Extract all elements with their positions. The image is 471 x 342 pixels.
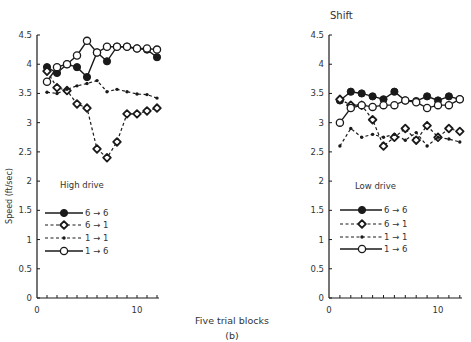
y-tick-label: 3.5 bbox=[18, 88, 32, 98]
y-tick-label: 0.5 bbox=[18, 264, 32, 274]
data-point bbox=[83, 73, 90, 80]
y-tick-label: 3 bbox=[27, 118, 32, 128]
data-point bbox=[73, 52, 80, 59]
x-tick-label: 10 bbox=[132, 305, 143, 315]
series-1-to-1 bbox=[338, 127, 461, 148]
data-point bbox=[103, 58, 110, 65]
data-point bbox=[153, 46, 160, 53]
series-1-to-6 bbox=[336, 96, 463, 127]
data-point bbox=[123, 110, 131, 118]
y-tick-label: 1.5 bbox=[18, 205, 32, 215]
y-tick-label: 1 bbox=[319, 235, 324, 245]
series-6-to-1 bbox=[336, 95, 464, 149]
legend-item: 1 → 6 bbox=[45, 246, 108, 256]
series-line bbox=[340, 99, 460, 122]
legend-item: 1 → 1 bbox=[45, 233, 108, 243]
data-point bbox=[93, 49, 100, 56]
data-point bbox=[85, 82, 88, 85]
legend-marker bbox=[62, 236, 65, 239]
y-tick-label: 4 bbox=[319, 59, 324, 69]
y-tick-label: 2 bbox=[27, 176, 32, 186]
series-6-to-1 bbox=[43, 67, 161, 161]
legend-item: 6 → 6 bbox=[340, 205, 407, 215]
drive-annotation: High drive bbox=[60, 180, 104, 190]
data-point bbox=[434, 102, 441, 109]
data-point bbox=[358, 102, 365, 109]
data-point bbox=[65, 88, 68, 91]
data-point bbox=[103, 154, 111, 162]
data-point bbox=[103, 43, 110, 50]
data-point bbox=[55, 92, 58, 95]
data-point bbox=[413, 99, 420, 106]
legend-item: 6 → 6 bbox=[45, 208, 108, 218]
y-tick-label: 4.5 bbox=[18, 30, 32, 40]
data-point bbox=[402, 97, 409, 104]
data-point bbox=[123, 43, 130, 50]
drive-annotation: Low drive bbox=[355, 181, 396, 191]
data-point bbox=[113, 43, 120, 50]
data-point bbox=[73, 64, 80, 71]
data-point bbox=[115, 88, 118, 91]
data-point bbox=[133, 45, 140, 52]
data-point bbox=[445, 125, 453, 133]
data-point bbox=[391, 88, 398, 95]
data-point bbox=[83, 37, 90, 44]
data-point bbox=[145, 93, 148, 96]
data-point bbox=[369, 103, 376, 110]
legend-marker bbox=[60, 209, 67, 216]
data-point bbox=[424, 93, 431, 100]
data-point bbox=[424, 104, 431, 111]
legend-marker bbox=[60, 247, 67, 254]
data-point bbox=[393, 133, 396, 136]
y-tick-label: 4 bbox=[27, 59, 32, 69]
data-point bbox=[135, 92, 138, 95]
data-point bbox=[113, 138, 121, 146]
y-tick-label: 4.5 bbox=[310, 30, 324, 40]
y-tick-label: 3 bbox=[319, 118, 324, 128]
chart-canvas: 00.511.522.533.544.5010High drive6 → 66 … bbox=[0, 0, 471, 342]
panel-title: Shift bbox=[330, 10, 353, 21]
y-tick-label: 1.5 bbox=[310, 205, 324, 215]
panel-low-drive: 00.511.522.533.544.5010ShiftLow drive6 →… bbox=[310, 10, 463, 315]
legend-marker bbox=[358, 206, 365, 213]
data-point bbox=[347, 88, 354, 95]
legend-label: 6 → 1 bbox=[85, 220, 108, 230]
data-point bbox=[369, 116, 377, 124]
legend-label: 6 → 1 bbox=[384, 219, 407, 229]
legend-label: 1 → 6 bbox=[85, 246, 108, 256]
data-point bbox=[45, 91, 48, 94]
data-point bbox=[436, 136, 439, 139]
legend-label: 6 → 6 bbox=[85, 208, 108, 218]
data-point bbox=[458, 140, 461, 143]
y-tick-label: 0.5 bbox=[310, 264, 324, 274]
y-tick-label: 2 bbox=[319, 176, 324, 186]
legend-marker bbox=[358, 245, 365, 252]
data-point bbox=[143, 107, 151, 115]
y-axis-title: Speed (ft/sec) bbox=[5, 168, 14, 224]
legend-marker bbox=[360, 235, 363, 238]
data-point bbox=[53, 64, 60, 71]
data-point bbox=[415, 131, 418, 134]
y-tick-label: 3.5 bbox=[310, 88, 324, 98]
x-tick-label: 0 bbox=[34, 305, 39, 315]
data-point bbox=[95, 79, 98, 82]
legend-label: 6 → 6 bbox=[384, 205, 407, 215]
legend-item: 6 → 1 bbox=[340, 219, 407, 229]
data-point bbox=[445, 93, 452, 100]
data-point bbox=[369, 93, 376, 100]
data-point bbox=[153, 54, 160, 61]
data-point bbox=[456, 96, 463, 103]
data-point bbox=[358, 90, 365, 97]
data-point bbox=[456, 128, 464, 136]
data-point bbox=[133, 110, 141, 118]
data-point bbox=[347, 104, 354, 111]
legend-label: 1 → 6 bbox=[384, 244, 407, 254]
x-axis-title: Five trial blocks bbox=[195, 315, 269, 326]
data-point bbox=[371, 133, 374, 136]
data-point bbox=[404, 139, 407, 142]
legend-item: 1 → 6 bbox=[340, 244, 407, 254]
legend-item: 1 → 1 bbox=[340, 232, 407, 242]
data-point bbox=[105, 90, 108, 93]
data-point bbox=[83, 104, 91, 112]
y-tick-label: 1 bbox=[27, 235, 32, 245]
